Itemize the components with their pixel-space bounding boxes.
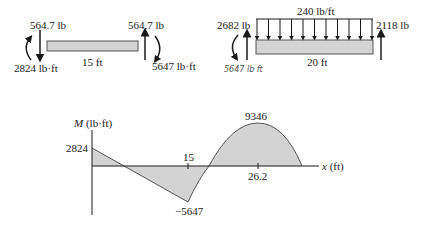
left-beam-right-force-label: 564.7 lb bbox=[128, 19, 165, 31]
value-min-label: −5647 bbox=[175, 205, 204, 217]
left-moment-arrow-icon bbox=[26, 38, 31, 60]
beam-diagrams: 564.7 lb 2824 lb·ft 15 ft 564.7 lb 5647 … bbox=[0, 0, 422, 235]
value-max-label: 9346 bbox=[245, 110, 268, 122]
y-axis-label: M (lb·ft) bbox=[73, 117, 113, 130]
left-beam-fbd: 564.7 lb 2824 lb·ft 15 ft 564.7 lb 5647 … bbox=[14, 19, 196, 74]
x-axis-label: x (ft) bbox=[321, 160, 344, 173]
left-beam-body bbox=[47, 41, 138, 51]
distributed-load-label: 240 lb/ft bbox=[297, 5, 335, 17]
left-beam-right-moment-label: 5647 lb·ft bbox=[152, 60, 196, 72]
tick-26-2-label: 26.2 bbox=[248, 170, 267, 182]
left-beam-right-moment-arrow-icon bbox=[155, 36, 160, 60]
moment-area-fill bbox=[92, 123, 302, 202]
left-beam-left-moment-label: 2824 lb·ft bbox=[14, 62, 58, 74]
value-start-label: 2824 bbox=[66, 142, 89, 154]
right-beam-left-moment-handwritten: 5647 lb ft bbox=[224, 65, 264, 74]
tick-15-label: 15 bbox=[183, 151, 195, 163]
right-beam-left-force-label: 2682 lb bbox=[217, 19, 251, 31]
right-beam-right-force-label: 2118 lb bbox=[376, 19, 409, 31]
right-beam-left-moment-arrow-icon bbox=[232, 35, 238, 58]
left-beam-length-label: 15 ft bbox=[82, 56, 102, 68]
right-beam-body bbox=[256, 40, 373, 54]
right-beam-length-label: 20 ft bbox=[307, 56, 327, 68]
right-beam-fbd: 240 lb/ft 2682 lb 5647 lb ft 20 ft 2118 … bbox=[217, 5, 409, 74]
moment-diagram: M (lb·ft) x (ft) 2824 15 −5647 9346 26.2 bbox=[66, 110, 344, 217]
left-beam-left-force-label: 564.7 lb bbox=[30, 19, 67, 31]
distributed-load-arrows-icon bbox=[257, 19, 372, 38]
